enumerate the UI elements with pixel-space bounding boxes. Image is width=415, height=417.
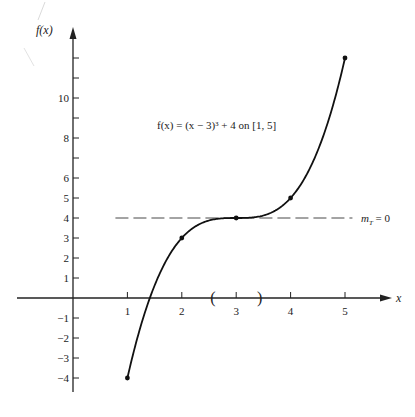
y-tick-label: 3 bbox=[64, 232, 70, 244]
scan-artifact bbox=[24, 48, 34, 66]
y-tick-label: 2 bbox=[64, 252, 70, 264]
y-tick-label: −2 bbox=[57, 332, 69, 344]
y-tick-label: 8 bbox=[64, 132, 70, 144]
y-tick-label: −1 bbox=[57, 312, 69, 324]
tangent-label-m: m bbox=[361, 212, 369, 224]
data-point bbox=[288, 196, 293, 201]
x-axis-arrow-icon bbox=[380, 295, 392, 302]
axes bbox=[17, 27, 392, 392]
y-axis-arrow-icon bbox=[70, 27, 77, 39]
tangent-label-rest: = 0 bbox=[373, 212, 391, 224]
x-tick-label: 3 bbox=[233, 305, 239, 317]
data-point bbox=[125, 376, 130, 381]
data-point bbox=[179, 236, 184, 241]
x-tick-label: 4 bbox=[288, 305, 294, 317]
y-tick-label: −3 bbox=[57, 352, 69, 364]
y-axis-label: f(x) bbox=[36, 23, 53, 37]
x-tick-label: 5 bbox=[342, 305, 348, 317]
y-tick-label: 6 bbox=[64, 172, 70, 184]
scan-artifact bbox=[38, 2, 45, 20]
axis-ticks: 12345−4−3−2−1123456810 bbox=[57, 58, 348, 384]
chart-figure: 12345−4−3−2−1123456810 f(x) x f(x) = (x … bbox=[0, 0, 415, 417]
interval-left-paren: ( bbox=[210, 289, 215, 307]
y-tick-label: −4 bbox=[57, 372, 69, 384]
y-tick-label: 1 bbox=[64, 272, 70, 284]
x-tick-label: 1 bbox=[125, 305, 131, 317]
y-tick-label: 5 bbox=[64, 192, 70, 204]
interval-right-paren: ) bbox=[257, 289, 262, 307]
x-axis-label: x bbox=[395, 291, 402, 305]
y-tick-label: 4 bbox=[64, 212, 70, 224]
x-tick-label: 2 bbox=[179, 305, 185, 317]
data-point bbox=[343, 56, 348, 61]
y-tick-label: 10 bbox=[58, 92, 70, 104]
function-annotation: f(x) = (x − 3)³ + 4 on [1, 5] bbox=[157, 119, 276, 132]
data-point bbox=[234, 216, 239, 221]
tangent-slope-label: mT = 0 bbox=[361, 212, 391, 227]
